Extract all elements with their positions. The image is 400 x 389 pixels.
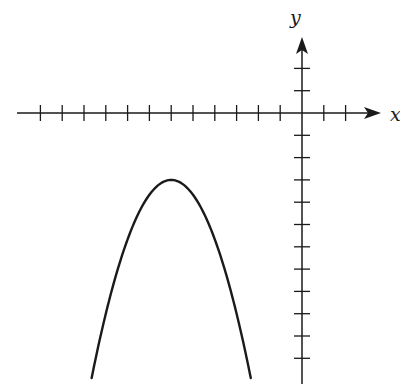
x-axis: [17, 107, 381, 119]
y-axis-label: y: [289, 6, 301, 28]
y-axis: [296, 37, 308, 384]
x-axis-label: x: [390, 103, 400, 125]
parabola-curve: [92, 180, 251, 378]
coordinate-plane: x y: [0, 0, 400, 389]
